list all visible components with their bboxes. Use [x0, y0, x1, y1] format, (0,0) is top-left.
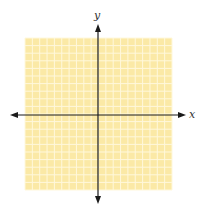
x-axis-label: x: [189, 109, 195, 120]
coordinate-plane-svg: [0, 0, 208, 215]
y-axis-down-arrow-icon: [95, 196, 101, 204]
x-axis-left-arrow-icon: [10, 112, 18, 118]
x-axis-right-arrow-icon: [178, 112, 186, 118]
y-axis-label: y: [94, 10, 100, 21]
coordinate-plane: x y: [0, 0, 208, 215]
y-axis-up-arrow-icon: [95, 24, 101, 32]
